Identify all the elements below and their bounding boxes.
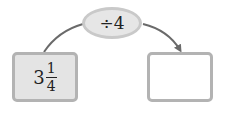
start-value-box: 3 1 4	[12, 52, 78, 102]
answer-box[interactable]	[147, 52, 213, 102]
mixed-number: 3 1 4	[33, 61, 56, 94]
numerator: 1	[47, 61, 56, 76]
fraction: 1 4	[46, 61, 57, 94]
operation-label: ÷4	[99, 13, 124, 33]
operation-oval: ÷4	[82, 7, 142, 39]
denominator: 4	[47, 79, 56, 94]
arrow-out	[143, 24, 180, 50]
arrow-in	[44, 24, 83, 52]
whole-part: 3	[33, 67, 44, 88]
